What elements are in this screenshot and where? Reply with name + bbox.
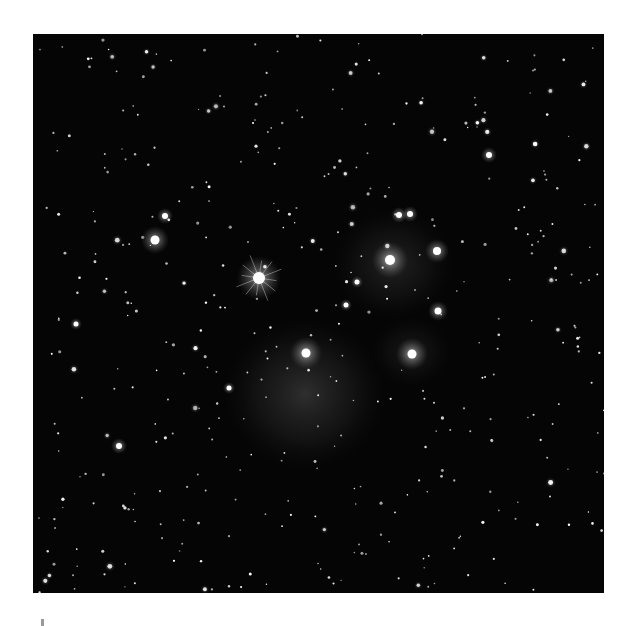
faint-star xyxy=(463,281,464,282)
faint-star xyxy=(531,252,533,254)
faint-star xyxy=(273,203,275,205)
faint-star xyxy=(485,130,489,134)
bright-star xyxy=(70,318,82,330)
faint-star xyxy=(433,402,435,404)
bright-star xyxy=(428,301,448,321)
faint-star xyxy=(527,417,529,419)
faint-star xyxy=(433,127,434,128)
faint-star xyxy=(103,573,105,575)
faint-star xyxy=(235,499,237,501)
faint-star xyxy=(497,333,500,336)
faint-star xyxy=(378,72,380,74)
faint-star xyxy=(498,509,500,511)
faint-star xyxy=(596,471,598,473)
faint-star xyxy=(360,552,363,555)
sky-canvas xyxy=(33,34,604,593)
faint-star xyxy=(281,122,283,124)
faint-star xyxy=(591,382,593,384)
faint-star xyxy=(226,456,228,458)
faint-star xyxy=(333,166,336,169)
faint-star xyxy=(182,281,185,284)
faint-star xyxy=(419,101,422,104)
faint-star xyxy=(266,72,268,74)
faint-star xyxy=(377,401,379,403)
bright-star xyxy=(157,208,173,224)
faint-star xyxy=(379,502,382,505)
faint-star xyxy=(52,132,54,134)
faint-star xyxy=(229,226,232,229)
faint-star xyxy=(81,397,83,399)
faint-star xyxy=(147,164,150,167)
faint-star xyxy=(320,248,323,251)
faint-star xyxy=(484,376,486,378)
faint-star xyxy=(532,589,534,591)
faint-star xyxy=(594,204,596,206)
faint-star xyxy=(367,152,369,154)
faint-star xyxy=(548,89,552,93)
faint-star xyxy=(214,104,218,108)
faint-star xyxy=(301,116,303,118)
faint-star xyxy=(254,332,256,334)
faint-star xyxy=(105,434,108,437)
faint-star xyxy=(474,104,476,106)
faint-star xyxy=(193,346,197,350)
faint-star xyxy=(110,55,114,59)
faint-star xyxy=(207,109,211,113)
faint-star xyxy=(537,241,539,243)
faint-star xyxy=(584,204,585,205)
faint-star xyxy=(208,185,211,188)
faint-star xyxy=(38,517,40,519)
faint-star xyxy=(423,398,425,400)
faint-star xyxy=(518,209,520,211)
faint-star xyxy=(556,187,558,189)
faint-star xyxy=(287,500,289,502)
faint-star xyxy=(277,51,279,53)
faint-star xyxy=(562,58,565,61)
faint-star xyxy=(574,326,576,328)
faint-star xyxy=(585,80,587,82)
faint-star xyxy=(57,432,59,434)
faint-star xyxy=(338,323,340,325)
faint-star xyxy=(384,285,387,288)
faint-star xyxy=(269,326,271,328)
faint-star xyxy=(267,358,269,360)
faint-star xyxy=(134,493,136,495)
faint-star xyxy=(58,317,60,319)
faint-star xyxy=(219,306,221,308)
faint-star xyxy=(161,537,163,539)
faint-star xyxy=(197,522,200,525)
faint-star xyxy=(154,423,156,425)
bright-star xyxy=(396,338,428,370)
caption-fragment xyxy=(41,619,44,626)
faint-star xyxy=(328,173,330,175)
faint-star xyxy=(252,122,254,124)
faint-star xyxy=(568,524,570,526)
faint-star xyxy=(341,108,343,110)
faint-star xyxy=(568,136,569,137)
faint-star xyxy=(106,171,109,174)
faint-star xyxy=(571,273,573,275)
faint-star xyxy=(576,337,579,340)
faint-star xyxy=(254,43,256,45)
faint-star xyxy=(314,460,317,463)
faint-star xyxy=(597,432,599,434)
faint-star xyxy=(540,230,542,232)
faint-star xyxy=(476,121,480,125)
faint-star xyxy=(523,206,525,208)
faint-star xyxy=(105,278,107,280)
faint-star xyxy=(170,60,172,62)
faint-star xyxy=(311,239,315,243)
faint-star xyxy=(338,159,341,162)
faint-star xyxy=(102,473,105,476)
faint-star xyxy=(267,131,269,133)
faint-star xyxy=(317,394,319,396)
faint-star xyxy=(58,350,61,353)
faint-star xyxy=(121,148,123,150)
faint-star xyxy=(567,469,569,471)
faint-star xyxy=(551,223,553,225)
faint-star xyxy=(337,231,339,233)
faint-star xyxy=(434,583,436,585)
faint-star xyxy=(418,479,420,481)
faint-star xyxy=(215,371,217,373)
faint-star xyxy=(211,438,213,440)
